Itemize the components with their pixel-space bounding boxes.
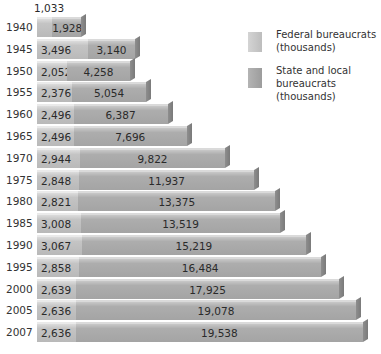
federal-bar: 2,858 xyxy=(37,257,79,277)
bar-end-cap xyxy=(225,145,230,168)
state-local-bar: 15,219 xyxy=(82,235,306,255)
bar-end-cap xyxy=(339,276,344,299)
federal-value-label: 2,496 xyxy=(41,128,71,146)
state-local-bar: 13,375 xyxy=(78,191,275,211)
state-local-value-label: 13,519 xyxy=(81,215,280,233)
federal-value-label: 2,636 xyxy=(41,324,71,342)
state-local-value-label: 3,140 xyxy=(88,41,134,59)
state-local-value-label: 15,219 xyxy=(82,237,306,255)
state-local-value-label: 19,538 xyxy=(76,324,363,342)
federal-bar: 2,636 xyxy=(37,300,76,320)
bar-end-cap xyxy=(130,58,135,81)
federal-bar: 2,052 xyxy=(37,61,67,81)
federal-value-label: 3,067 xyxy=(41,237,71,255)
bar-end-cap xyxy=(321,254,326,277)
year-label: 1965 xyxy=(6,126,36,146)
year-label: 1960 xyxy=(6,104,36,124)
federal-value-label: 2,821 xyxy=(41,193,71,211)
year-label: 1975 xyxy=(6,170,36,190)
state-local-bar: 4,258 xyxy=(67,61,130,81)
federal-bar: 2,496 xyxy=(37,126,74,146)
year-label: 1955 xyxy=(6,82,36,102)
legend-label-state-local: State and local bureaucrats (thousands) xyxy=(276,64,381,103)
year-label: 2000 xyxy=(6,279,36,299)
federal-value-label: 3,008 xyxy=(41,215,71,233)
state-local-swatch-icon xyxy=(248,68,262,88)
year-label: 1970 xyxy=(6,148,36,168)
federal-bar: 3,008 xyxy=(37,213,81,233)
bar-end-cap xyxy=(254,167,259,190)
state-local-bar: 1,928 xyxy=(52,17,80,37)
federal-value-label: 2,944 xyxy=(41,150,71,168)
bar-end-cap xyxy=(306,232,311,255)
state-local-value-label: 9,822 xyxy=(80,150,224,168)
state-local-bar: 16,484 xyxy=(79,257,321,277)
state-local-value-label: 17,925 xyxy=(76,281,340,299)
state-local-bar: 17,925 xyxy=(76,279,340,299)
state-local-bar: 13,519 xyxy=(81,213,280,233)
federal-bar: 2,636 xyxy=(37,322,76,342)
state-local-value-label: 16,484 xyxy=(79,259,321,277)
year-label: 1940 xyxy=(6,17,36,37)
year-label: 1980 xyxy=(6,191,36,211)
federal-bar: 3,496 xyxy=(37,39,88,59)
federal-value-label: 1,033 xyxy=(34,2,64,14)
state-local-bar: 9,822 xyxy=(80,148,224,168)
federal-bar: 2,376 xyxy=(37,82,72,102)
state-local-bar: 5,054 xyxy=(72,82,146,102)
state-local-bar: 6,387 xyxy=(74,104,168,124)
bar-end-cap xyxy=(135,36,140,59)
federal-bar: 2,639 xyxy=(37,279,76,299)
bar-end-cap xyxy=(81,14,86,37)
year-label: 1985 xyxy=(6,213,36,233)
federal-bar: 2,848 xyxy=(37,170,79,190)
bar-end-cap xyxy=(275,189,280,212)
federal-value-label: 3,496 xyxy=(41,41,71,59)
federal-bar: 3,067 xyxy=(37,235,82,255)
bar-end-cap xyxy=(356,298,361,321)
bar-end-cap xyxy=(168,101,173,124)
federal-swatch-icon xyxy=(248,32,262,52)
federal-value-label: 2,496 xyxy=(41,106,71,124)
state-local-value-label: 5,054 xyxy=(72,84,146,102)
federal-bar xyxy=(37,17,52,37)
state-local-value-label: 13,375 xyxy=(78,193,275,211)
federal-value-label: 2,858 xyxy=(41,259,71,277)
bar-end-cap xyxy=(146,80,151,103)
bar-end-cap xyxy=(280,210,285,233)
state-local-bar: 19,078 xyxy=(76,300,356,320)
state-local-bar: 19,538 xyxy=(76,322,363,342)
year-label: 1950 xyxy=(6,61,36,81)
state-local-value-label: 11,937 xyxy=(79,172,254,190)
bar-end-cap xyxy=(363,319,368,342)
federal-value-label: 2,848 xyxy=(41,172,71,190)
state-local-value-label: 19,078 xyxy=(76,302,356,320)
state-local-bar: 11,937 xyxy=(79,170,254,190)
state-local-value-label: 1,928 xyxy=(52,19,80,37)
federal-value-label: 2,639 xyxy=(41,281,71,299)
state-local-bar: 7,696 xyxy=(74,126,187,146)
state-local-value-label: 7,696 xyxy=(74,128,187,146)
federal-bar: 2,944 xyxy=(37,148,80,168)
federal-value-label: 2,376 xyxy=(41,84,71,102)
year-label: 2007 xyxy=(6,322,36,342)
year-label: 1945 xyxy=(6,39,36,59)
state-local-value-label: 6,387 xyxy=(74,106,168,124)
bar-end-cap xyxy=(187,123,192,146)
legend-label-federal: Federal bureaucrats (thousands) xyxy=(276,28,381,54)
federal-value-label: 2,636 xyxy=(41,302,71,320)
year-label: 1995 xyxy=(6,257,36,277)
year-label: 1990 xyxy=(6,235,36,255)
federal-bar: 2,821 xyxy=(37,191,78,211)
state-local-bar: 3,140 xyxy=(88,39,134,59)
state-local-value-label: 4,258 xyxy=(67,63,130,81)
federal-bar: 2,496 xyxy=(37,104,74,124)
year-label: 2005 xyxy=(6,300,36,320)
